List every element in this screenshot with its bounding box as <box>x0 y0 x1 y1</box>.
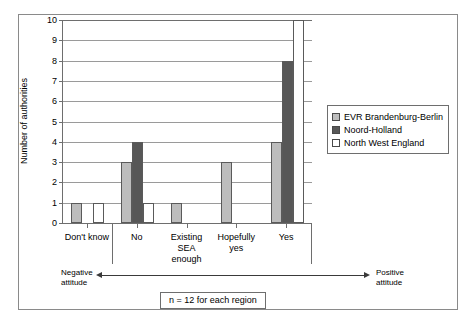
gridline <box>63 142 312 143</box>
y-tick-label: 0 <box>52 219 57 228</box>
y-tick-mark <box>59 142 63 143</box>
gridline <box>63 61 312 62</box>
legend-item: North West England <box>332 136 443 149</box>
x-category-label: No <box>131 232 143 243</box>
attitude-arrow-line <box>102 275 364 276</box>
x-tick-mark <box>187 224 188 228</box>
y-tick-mark <box>59 20 63 21</box>
bar <box>171 203 182 223</box>
bar <box>121 162 132 223</box>
positive-attitude-label: Positive attitude <box>376 268 404 288</box>
attitude-arrow-head-right <box>364 272 370 278</box>
y-tick-mark <box>59 182 63 183</box>
gridline <box>63 122 312 123</box>
gridline <box>63 182 312 183</box>
plot-area: 012345678910 <box>62 20 312 224</box>
legend-item: Noord-Holland <box>332 123 443 136</box>
y-tick-mark <box>59 81 63 82</box>
y-tick-label: 3 <box>52 158 57 167</box>
bar <box>71 203 82 223</box>
chart-legend: EVR Brandenburg-BerlinNoord-HollandNorth… <box>327 105 449 154</box>
negative-attitude-label: Negative attitude <box>61 268 93 288</box>
bar <box>93 203 104 223</box>
y-tick-label: 1 <box>52 198 57 207</box>
x-tick-mark <box>236 224 237 228</box>
y-tick-mark <box>59 101 63 102</box>
y-tick-label: 5 <box>52 117 57 126</box>
gridline <box>63 40 312 41</box>
y-tick-mark <box>59 162 63 163</box>
legend-label: Noord-Holland <box>344 125 402 135</box>
legend-swatch-icon <box>332 113 340 121</box>
gridline <box>63 101 312 102</box>
y-tick-label: 10 <box>47 16 57 25</box>
legend-label: North West England <box>344 138 424 148</box>
x-tick-mark <box>137 224 138 228</box>
category-separator <box>311 224 312 264</box>
x-axis-labels: Don't knowNoExisting SEA enoughHopefully… <box>62 224 311 264</box>
x-tick-mark <box>286 224 287 228</box>
gridline <box>63 203 312 204</box>
gridline <box>63 81 312 82</box>
y-tick-label: 2 <box>52 178 57 187</box>
bar <box>143 203 154 223</box>
y-tick-mark <box>59 40 63 41</box>
y-tick-mark <box>59 203 63 204</box>
x-category-label: Hopefully yes <box>218 232 256 254</box>
x-category-label: Existing SEA enough <box>171 232 203 265</box>
attitude-scale-annotation: Negative attitude Positive attitude <box>18 262 458 292</box>
x-category-label: Yes <box>279 232 294 243</box>
sample-size-caption: n = 12 for each region <box>160 292 266 309</box>
x-tick-mark <box>87 224 88 228</box>
attitude-arrow-head-left <box>96 272 102 278</box>
x-category-label: Don't know <box>65 232 109 243</box>
gridline <box>63 20 312 21</box>
y-tick-label: 6 <box>52 97 57 106</box>
category-separator <box>112 224 113 264</box>
y-tick-label: 7 <box>52 76 57 85</box>
bar <box>221 162 232 223</box>
chart-figure: Number of authorities 012345678910 Don't… <box>0 0 476 329</box>
legend-swatch-icon <box>332 139 340 147</box>
y-tick-label: 8 <box>52 56 57 65</box>
legend-item: EVR Brandenburg-Berlin <box>332 110 443 123</box>
gridline <box>63 162 312 163</box>
y-tick-label: 9 <box>52 36 57 45</box>
legend-label: EVR Brandenburg-Berlin <box>344 112 443 122</box>
y-tick-label: 4 <box>52 137 57 146</box>
y-tick-mark <box>59 61 63 62</box>
y-axis-title: Number of authorities <box>19 78 29 164</box>
legend-swatch-icon <box>332 126 340 134</box>
y-tick-mark <box>59 122 63 123</box>
